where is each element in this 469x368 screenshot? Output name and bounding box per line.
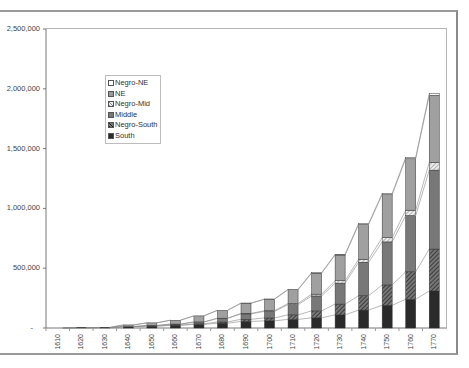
bar-segment	[217, 310, 227, 318]
bar-segment	[359, 225, 369, 260]
bar-segment	[265, 318, 275, 321]
bar-segment	[429, 95, 439, 162]
bar-segment	[406, 272, 416, 300]
legend-item-negro-mid: Negro-Mid	[108, 99, 158, 110]
bar-segment	[382, 305, 392, 328]
bar-segment	[406, 216, 416, 272]
bar-segment	[335, 281, 345, 283]
chart-legend: Negro-NE NE Negro-Mid Middle Negro-South…	[105, 75, 161, 144]
bar-segment	[265, 311, 275, 318]
legend-item-negro-south: Negro-South	[108, 120, 158, 131]
bar-segment	[312, 273, 322, 294]
bar-segment	[406, 157, 416, 158]
legend-item-south: South	[108, 131, 158, 142]
bar-segment	[241, 321, 251, 328]
bar-segment	[429, 291, 439, 328]
bar-segment	[288, 305, 298, 315]
bar-segment	[429, 249, 439, 291]
bar-segment	[382, 195, 392, 238]
bar-segment	[265, 321, 275, 328]
bar-segment	[429, 162, 439, 170]
swatch-icon	[108, 101, 114, 107]
swatch-icon	[108, 91, 114, 97]
swatch-icon	[108, 122, 114, 128]
bar-segment	[382, 238, 392, 242]
swatch-icon	[108, 112, 114, 118]
bar-segment	[335, 255, 345, 281]
swatch-icon	[108, 133, 114, 139]
bar-segment	[406, 299, 416, 328]
bar-segment	[335, 315, 345, 328]
bar-segment	[406, 159, 416, 210]
bar-segment	[147, 326, 157, 328]
bar-segment	[382, 242, 392, 285]
legend-item-middle: Middle	[108, 110, 158, 121]
bar-segment	[288, 290, 298, 304]
bar-segment	[194, 316, 204, 322]
bar-segment	[217, 318, 227, 322]
bar-segment	[241, 303, 251, 313]
bar-segment	[312, 294, 322, 296]
bar-segment	[170, 325, 180, 328]
swatch-icon	[108, 80, 114, 86]
bar-segment	[335, 254, 345, 255]
bar-segment	[429, 94, 439, 96]
bar-segment	[359, 259, 369, 262]
bar-segment	[147, 323, 157, 326]
stacked-bar-chart	[0, 0, 469, 368]
bar-segment	[429, 170, 439, 249]
bar-segment	[359, 296, 369, 310]
bar-segment	[194, 322, 204, 324]
bar-segment	[312, 311, 322, 318]
bar-segment	[406, 210, 416, 215]
bar-segment	[265, 299, 275, 310]
bar-segment	[312, 296, 322, 311]
bar-segment	[359, 224, 369, 225]
legend-item-negro-ne: Negro-NE	[108, 78, 158, 89]
bar-segment	[335, 283, 345, 304]
bar-segment	[288, 319, 298, 328]
bar-segment	[123, 325, 133, 327]
bar-segment	[194, 324, 204, 328]
bar-segment	[123, 327, 133, 328]
bar-segment	[241, 314, 251, 319]
bar-segment	[312, 318, 322, 328]
bar-segment	[359, 262, 369, 295]
bar-segment	[382, 285, 392, 305]
bar-segment	[312, 273, 322, 274]
bar-segment	[217, 323, 227, 328]
legend-item-ne: NE	[108, 89, 158, 100]
bar-segment	[241, 319, 251, 321]
bar-segment	[382, 193, 392, 194]
bar-segment	[170, 320, 180, 324]
bar-segment	[288, 315, 298, 320]
bar-segment	[335, 304, 345, 315]
bar-segment	[359, 310, 369, 328]
